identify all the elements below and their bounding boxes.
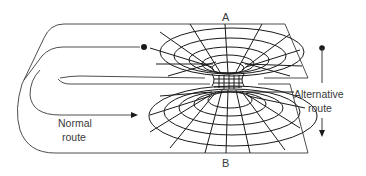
normal-route-arrow bbox=[131, 112, 138, 118]
label-alternative-route-2: route bbox=[308, 102, 332, 114]
label-alternative-route-1: Alternative bbox=[294, 88, 344, 100]
wormhole-diagram: A B Normal route Alternative route bbox=[0, 0, 366, 176]
start-point-dot bbox=[141, 44, 147, 50]
wormhole-mouth-b bbox=[149, 86, 317, 153]
label-normal-route-2: route bbox=[62, 131, 86, 143]
label-point-b: B bbox=[222, 157, 229, 169]
wormhole-mouth-a bbox=[150, 24, 304, 76]
label-point-a: A bbox=[222, 11, 230, 23]
label-normal-route-1: Normal bbox=[58, 117, 92, 129]
